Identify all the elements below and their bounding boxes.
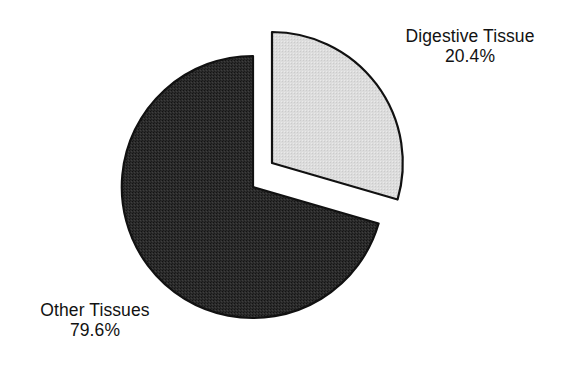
pie-label-digestive-tissue-value: 20.4% — [384, 46, 556, 66]
pie-label-digestive-tissue-name: Digestive Tissue — [384, 26, 556, 46]
pie-label-other-tissues-name: Other Tissues — [28, 300, 162, 320]
pie-label-other-tissues: Other Tissues 79.6% — [28, 300, 162, 340]
pie-chart-figure: Digestive Tissue 20.4% Other Tissues 79.… — [0, 0, 563, 367]
pie-label-digestive-tissue: Digestive Tissue 20.4% — [384, 26, 556, 66]
pie-label-other-tissues-value: 79.6% — [28, 320, 162, 340]
